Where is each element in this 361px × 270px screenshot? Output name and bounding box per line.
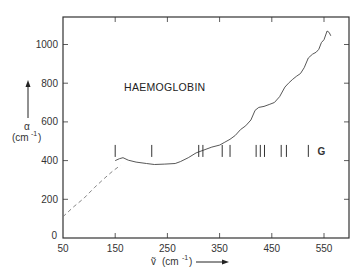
marker-label: G — [317, 146, 325, 157]
series-extrapolated — [63, 165, 120, 216]
x-axis-unit: (cm — [162, 256, 179, 267]
y-tick-label: 400 — [41, 155, 58, 166]
y-tick-label: 800 — [41, 78, 58, 89]
series-measured — [115, 31, 331, 165]
y-tick-label: 0 — [51, 230, 57, 241]
svg-text:): ) — [189, 256, 192, 267]
y-axis-symbol: α — [24, 121, 30, 132]
plot-border — [63, 17, 349, 238]
y-tick-label: 1000 — [36, 39, 59, 50]
y-axis-label: α (cm -1 ) — [12, 80, 41, 143]
data-series — [63, 31, 331, 217]
x-tick-label: 450 — [263, 243, 280, 254]
x-tick-label: 350 — [211, 243, 228, 254]
y-axis-unit: (cm — [12, 132, 29, 143]
plot-frame — [63, 17, 349, 238]
x-axis-ticks: 50150250350450550 — [57, 17, 332, 254]
x-tick-label: 150 — [107, 243, 124, 254]
sample-label: HAEMOGLOBIN — [124, 81, 205, 93]
arrow-right-icon — [222, 260, 229, 265]
absorption-chart: 50150250350450550 02004006008001000 G HA… — [0, 0, 361, 270]
svg-text:): ) — [38, 132, 41, 143]
y-tick-label: 200 — [41, 194, 58, 205]
y-axis-ticks: 02004006008001000 — [36, 39, 349, 241]
x-tick-label: 50 — [57, 243, 69, 254]
x-axis-symbol: ṽ — [151, 256, 156, 267]
x-tick-label: 250 — [159, 243, 176, 254]
x-axis-label: ṽ (cm -1 ) — [151, 254, 229, 267]
svg-text:-1: -1 — [182, 254, 188, 261]
arrow-up-icon — [26, 80, 31, 87]
y-tick-label: 600 — [41, 116, 58, 127]
band-markers: G — [115, 145, 325, 157]
x-tick-label: 550 — [316, 243, 333, 254]
svg-text:-1: -1 — [31, 130, 37, 137]
